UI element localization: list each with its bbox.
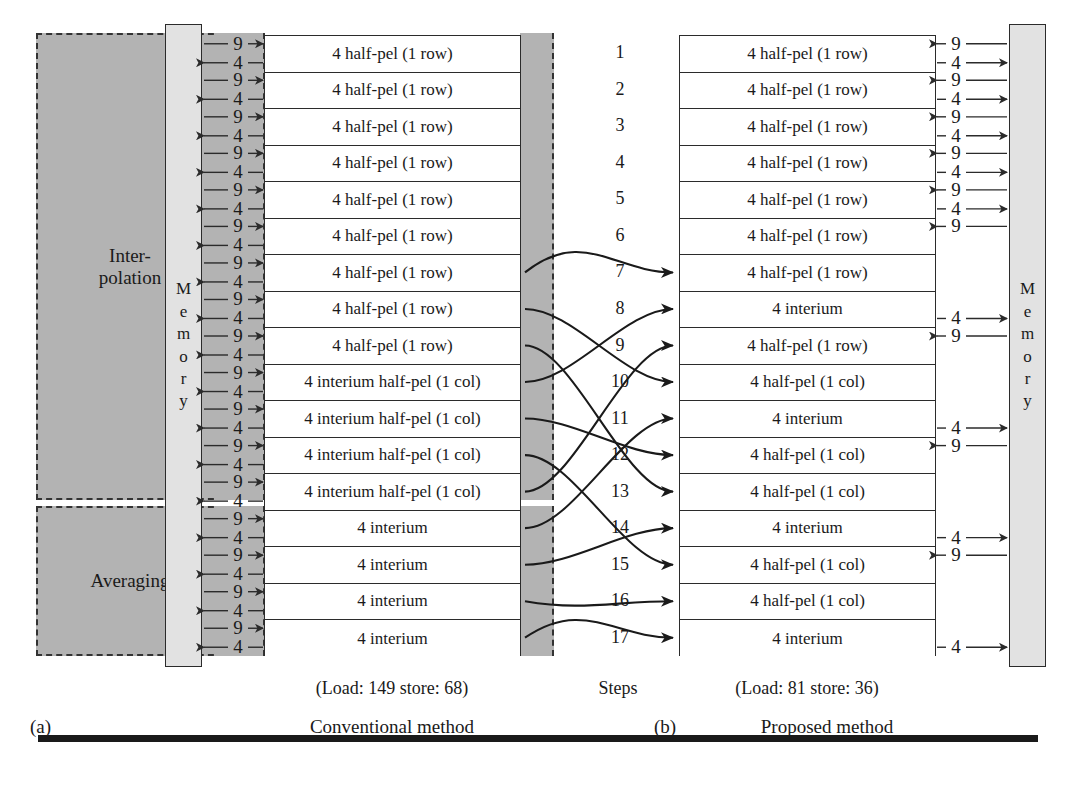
- table-row[interactable]: 4 half-pel (1 col): [680, 584, 935, 621]
- left-load-label: 9: [229, 253, 247, 272]
- table-row[interactable]: 4 interium: [680, 511, 935, 548]
- step-number: 12: [605, 444, 635, 465]
- table-row[interactable]: 4 interium: [680, 620, 935, 657]
- left-crossing-band-upper: [520, 33, 554, 500]
- table-row[interactable]: 4 interium half-pel (1 col): [265, 365, 520, 402]
- step-number: 8: [605, 298, 635, 319]
- memory-left-letter: m: [177, 323, 190, 345]
- table-row[interactable]: 4 interium half-pel (1 col): [265, 401, 520, 438]
- table-row-label: 4 half-pel (1 row): [332, 44, 452, 64]
- figure-canvas: Inter- polation Averaging M e m o r y 4 …: [0, 0, 1072, 787]
- table-row-label: 4 half-pel (1 col): [750, 591, 865, 611]
- right-load-label: 9: [947, 107, 965, 126]
- table-row[interactable]: 4 half-pel (1 col): [680, 438, 935, 475]
- right-cost-label: (Load: 81 store: 36): [722, 678, 892, 699]
- table-row[interactable]: 4 half-pel (1 row): [265, 219, 520, 256]
- table-row[interactable]: 4 half-pel (1 row): [265, 36, 520, 73]
- table-row-label: 4 half-pel (1 col): [750, 482, 865, 502]
- table-row[interactable]: 4 half-pel (1 row): [265, 109, 520, 146]
- left-load-label: 9: [229, 326, 247, 345]
- table-row-label: 4 half-pel (1 col): [750, 445, 865, 465]
- table-row[interactable]: 4 half-pel (1 row): [680, 73, 935, 110]
- left-store-label: 4: [229, 637, 247, 656]
- table-row[interactable]: 4 half-pel (1 col): [680, 547, 935, 584]
- table-row[interactable]: 4 half-pel (1 row): [680, 182, 935, 219]
- memory-left-letter: e: [180, 301, 188, 323]
- table-row-label: 4 interium: [772, 409, 842, 429]
- table-row[interactable]: 4 half-pel (1 row): [680, 146, 935, 183]
- function-block-averaging-label: Averaging: [91, 570, 170, 592]
- table-row[interactable]: 4 interium half-pel (1 col): [265, 474, 520, 511]
- table-row[interactable]: 4 half-pel (1 row): [265, 255, 520, 292]
- table-row[interactable]: 4 interium: [265, 511, 520, 548]
- left-load-label: 9: [229, 436, 247, 455]
- step-number: 11: [605, 408, 635, 429]
- left-load-label: 9: [229, 399, 247, 418]
- table-row-label: 4 half-pel (1 row): [332, 299, 452, 319]
- step-number: 6: [605, 225, 635, 246]
- table-row-label: 4 half-pel (1 row): [332, 226, 452, 246]
- right-store-label: 4: [947, 637, 965, 656]
- left-load-label: 9: [229, 216, 247, 235]
- table-row[interactable]: 4 interium: [265, 620, 520, 657]
- table-row[interactable]: 4 half-pel (1 row): [680, 109, 935, 146]
- conventional-step-table: 4 half-pel (1 row)4 half-pel (1 row)4 ha…: [264, 35, 521, 656]
- left-load-label: 9: [229, 509, 247, 528]
- table-row[interactable]: 4 interium: [265, 547, 520, 584]
- table-row[interactable]: 4 half-pel (1 row): [265, 292, 520, 329]
- step-number: 1: [605, 42, 635, 63]
- left-load-label: 9: [229, 618, 247, 637]
- table-row[interactable]: 4 half-pel (1 row): [680, 255, 935, 292]
- table-row-label: 4 half-pel (1 col): [750, 372, 865, 392]
- step-number: 15: [605, 554, 635, 575]
- left-cost-label: (Load: 149 store: 68): [302, 678, 482, 699]
- table-row[interactable]: 4 half-pel (1 row): [680, 219, 935, 256]
- right-load-label: 9: [947, 326, 965, 345]
- table-row[interactable]: 4 half-pel (1 row): [680, 36, 935, 73]
- right-load-label: 9: [947, 143, 965, 162]
- table-row-label: 4 interium half-pel (1 col): [304, 372, 481, 392]
- table-row[interactable]: 4 half-pel (1 row): [265, 73, 520, 110]
- table-row[interactable]: 4 interium: [680, 292, 935, 329]
- table-row-label: 4 interium: [772, 629, 842, 649]
- step-number: 16: [605, 590, 635, 611]
- memory-right-letter: r: [1025, 368, 1031, 390]
- left-load-label: 9: [229, 582, 247, 601]
- left-load-label: 9: [229, 363, 247, 382]
- table-row-label: 4 interium half-pel (1 col): [304, 482, 481, 502]
- right-load-label: 9: [947, 34, 965, 53]
- table-row-label: 4 half-pel (1 row): [332, 117, 452, 137]
- table-row[interactable]: 4 half-pel (1 row): [265, 146, 520, 183]
- table-row[interactable]: 4 interium: [265, 584, 520, 621]
- memory-left-letter: M: [176, 278, 191, 300]
- table-row[interactable]: 4 interium: [680, 401, 935, 438]
- table-row-label: 4 half-pel (1 row): [332, 153, 452, 173]
- table-row-label: 4 half-pel (1 row): [747, 80, 867, 100]
- memory-right-letter: M: [1020, 278, 1035, 300]
- step-number: 10: [605, 371, 635, 392]
- function-block-interpolation-label: Inter- polation: [99, 245, 161, 289]
- table-row-label: 4 interium: [357, 591, 427, 611]
- table-row[interactable]: 4 half-pel (1 row): [680, 328, 935, 365]
- table-row[interactable]: 4 interium half-pel (1 col): [265, 438, 520, 475]
- memory-right-letter: o: [1023, 346, 1032, 368]
- table-row-label: 4 half-pel (1 row): [747, 44, 867, 64]
- step-number: 9: [605, 335, 635, 356]
- table-row[interactable]: 4 half-pel (1 col): [680, 365, 935, 402]
- table-row-label: 4 interium: [357, 555, 427, 575]
- table-row-label: 4 half-pel (1 row): [332, 336, 452, 356]
- table-row[interactable]: 4 half-pel (1 col): [680, 474, 935, 511]
- step-number: 4: [605, 152, 635, 173]
- step-number: 3: [605, 115, 635, 136]
- memory-right-letter: y: [1023, 390, 1032, 412]
- table-row-label: 4 half-pel (1 row): [332, 190, 452, 210]
- table-row-label: 4 interium: [357, 629, 427, 649]
- table-row-label: 4 half-pel (1 row): [332, 80, 452, 100]
- memory-left-letter: o: [179, 346, 188, 368]
- table-row-label: 4 interium half-pel (1 col): [304, 445, 481, 465]
- table-row[interactable]: 4 half-pel (1 row): [265, 328, 520, 365]
- table-row[interactable]: 4 half-pel (1 row): [265, 182, 520, 219]
- table-row-label: 4 half-pel (1 row): [332, 263, 452, 283]
- left-load-label: 9: [229, 107, 247, 126]
- left-crossing-band-lower: [520, 506, 554, 656]
